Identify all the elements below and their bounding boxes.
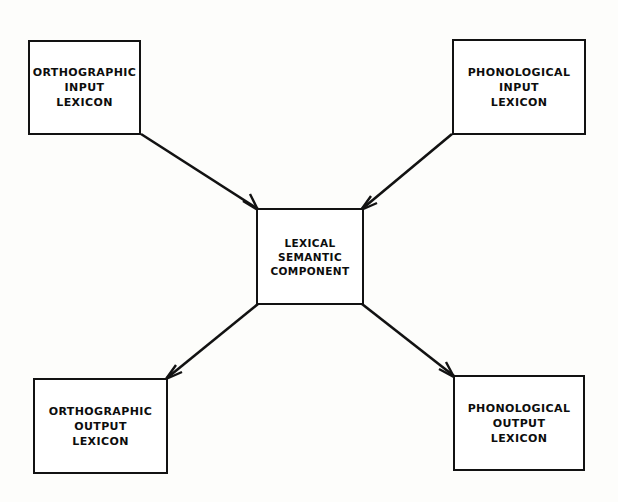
node-label-line: OUTPUT xyxy=(493,416,546,431)
node-orthographic-input-lexicon[interactable]: ORTHOGRAPHIC INPUT LEXICON xyxy=(28,40,141,135)
arrow-phonological-input-to-lexical-semantic xyxy=(361,134,452,210)
node-phonological-output-lexicon[interactable]: PHONOLOGICAL OUTPUT LEXICON xyxy=(453,375,585,471)
node-label-line: INPUT xyxy=(499,80,539,95)
node-label-line: LEXICON xyxy=(72,434,129,449)
node-label-line: OUTPUT xyxy=(74,419,127,434)
node-label-line: LEXICAL xyxy=(284,236,335,250)
lexical-model-diagram: ORTHOGRAPHIC INPUT LEXICON PHONOLOGICAL … xyxy=(0,0,618,502)
node-label-line: ORTHOGRAPHIC xyxy=(49,404,153,419)
node-label-line: ORTHOGRAPHIC xyxy=(33,65,137,80)
node-orthographic-output-lexicon[interactable]: ORTHOGRAPHIC OUTPUT LEXICON xyxy=(33,378,168,474)
node-label-line: COMPONENT xyxy=(270,264,349,278)
node-label-line: PHONOLOGICAL xyxy=(468,401,571,416)
node-label-line: SEMANTIC xyxy=(278,250,342,264)
node-label-line: LEXICON xyxy=(491,431,548,446)
node-phonological-input-lexicon[interactable]: PHONOLOGICAL INPUT LEXICON xyxy=(452,39,586,135)
node-label-line: INPUT xyxy=(65,80,105,95)
arrow-lexical-semantic-to-orthographic-output xyxy=(166,304,258,379)
arrow-orthographic-input-to-lexical-semantic xyxy=(141,134,258,210)
node-lexical-semantic-component[interactable]: LEXICAL SEMANTIC COMPONENT xyxy=(256,208,364,305)
node-label-line: PHONOLOGICAL xyxy=(468,65,571,80)
arrow-lexical-semantic-to-phonological-output xyxy=(362,304,454,377)
node-label-line: LEXICON xyxy=(491,95,548,110)
node-label-line: LEXICON xyxy=(56,95,113,110)
